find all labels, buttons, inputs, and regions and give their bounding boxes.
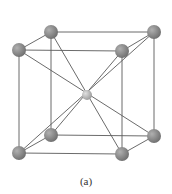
bond-line bbox=[51, 135, 154, 136]
figure-caption: (a) bbox=[0, 175, 172, 187]
bcc-unit-cell-diagram bbox=[0, 0, 172, 194]
front-top-left-atom bbox=[12, 43, 26, 57]
back-bottom-left-atom bbox=[44, 128, 58, 142]
front-top-right-atom bbox=[115, 44, 129, 58]
front-bottom-left-atom bbox=[12, 146, 26, 160]
body-center-atom bbox=[82, 90, 92, 100]
back-bottom-right-atom bbox=[147, 129, 161, 143]
bond-line bbox=[19, 153, 122, 154]
back-top-right-atom bbox=[147, 25, 161, 39]
front-bottom-right-atom bbox=[115, 147, 129, 161]
bond-line bbox=[19, 50, 122, 51]
back-top-left-atom bbox=[44, 25, 58, 39]
